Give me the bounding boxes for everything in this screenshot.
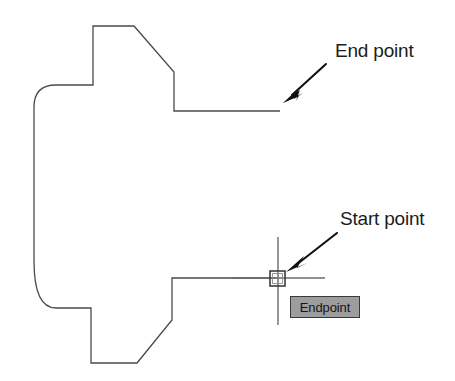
start-point-annotation-label: Start point xyxy=(340,209,424,228)
start-point-leader-arrow xyxy=(286,233,337,272)
part-outline-path xyxy=(34,26,280,363)
end-point-leader-arrow xyxy=(283,64,326,103)
figure-canvas: End point Start point Endpoint xyxy=(0,0,455,381)
endpoint-tooltip-label: Endpoint xyxy=(300,301,351,314)
endpoint-osnap-tooltip: Endpoint xyxy=(290,296,360,318)
end-point-annotation-label: End point xyxy=(335,41,414,60)
